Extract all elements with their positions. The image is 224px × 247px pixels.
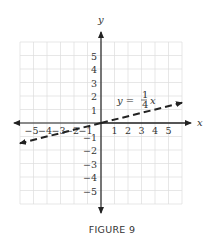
svg-text:−5: −5 <box>83 186 97 197</box>
svg-text:3: 3 <box>138 125 144 136</box>
svg-text:−1: −1 <box>83 132 97 143</box>
svg-text:−2: −2 <box>83 145 97 156</box>
svg-text:2: 2 <box>125 125 131 136</box>
svg-text:1: 1 <box>91 105 97 116</box>
svg-text:−3: −3 <box>83 159 97 170</box>
svg-text:4: 4 <box>142 99 148 110</box>
svg-text:4: 4 <box>152 125 158 136</box>
coordinate-plane: x y −5−4−3−2−11234554321−1−2−3−4−5 y = 1… <box>0 0 224 247</box>
svg-text:5: 5 <box>91 51 97 62</box>
svg-text:−4: −4 <box>38 125 52 136</box>
equation-label: y = 1 4 x <box>116 89 156 110</box>
svg-text:−5: −5 <box>24 125 38 136</box>
svg-text:−4: −4 <box>83 172 97 183</box>
svg-text:5: 5 <box>165 125 171 136</box>
svg-text:y =: y = <box>116 95 134 106</box>
svg-text:3: 3 <box>91 78 97 89</box>
svg-text:1: 1 <box>111 125 117 136</box>
svg-text:2: 2 <box>91 91 97 102</box>
y-axis-label: y <box>97 14 104 25</box>
x-axis-label: x <box>197 117 203 128</box>
svg-text:x: x <box>150 95 156 106</box>
svg-text:4: 4 <box>91 64 97 75</box>
figure-caption: FIGURE 9 <box>0 224 224 235</box>
